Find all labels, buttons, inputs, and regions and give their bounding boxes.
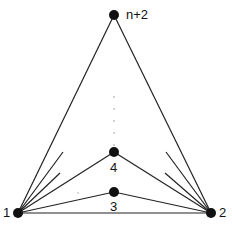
edge-2-3 (114, 192, 211, 213)
edges (18, 15, 211, 213)
ellipsis-dot (113, 108, 115, 110)
edge-1-n2 (18, 15, 114, 213)
partial-edge-1b (18, 173, 60, 213)
ellipsis-dot (113, 96, 115, 98)
edge-1-3 (18, 192, 114, 213)
partial-edge-1a (18, 152, 63, 213)
ellipsis-dot (113, 120, 115, 122)
node-1 (13, 208, 23, 218)
node-label-4: 4 (110, 160, 117, 175)
stray-dot (77, 192, 78, 193)
ellipsis-dots (77, 96, 114, 194)
partial-edge-2a (166, 152, 211, 213)
node-3 (109, 187, 119, 197)
graph-diagram: 1 2 3 4 n+2 (0, 0, 232, 230)
partial-edge-2b (165, 173, 211, 213)
nodes (13, 10, 216, 218)
node-label-2: 2 (219, 205, 226, 220)
edge-2-n2 (114, 15, 211, 213)
node-label-3: 3 (110, 199, 117, 214)
node-label-n-plus-2: n+2 (126, 7, 148, 22)
node-2 (206, 208, 216, 218)
node-label-1: 1 (3, 205, 10, 220)
node-n-plus-2 (109, 10, 119, 20)
ellipsis-dot (113, 144, 115, 146)
ellipsis-dot (113, 132, 115, 134)
node-4 (109, 147, 119, 157)
